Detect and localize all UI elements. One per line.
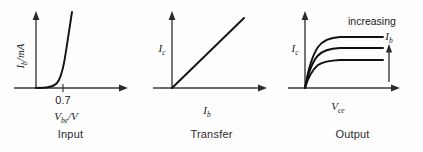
output-y-axis-label: Ic [290, 42, 299, 57]
output-curve-high [305, 37, 383, 88]
transfer-x-axis-label: Ib [202, 104, 211, 119]
panel-output: Ic Vce increasing Ib Output [282, 0, 423, 152]
transfer-caption: Transfer [141, 128, 282, 140]
transfer-curve [172, 18, 244, 88]
input-caption: Input [0, 128, 141, 140]
transistor-characteristics-figure: Ib/mA 0.7 Vbe/V Input Ic [0, 0, 423, 152]
input-plot: Ib/mA 0.7 Vbe/V [0, 0, 141, 125]
output-x-axis-arrowhead [391, 85, 400, 92]
output-y-axis-arrowhead [302, 11, 309, 20]
output-increasing-annotation: increasing [348, 15, 396, 27]
input-curve [36, 12, 72, 88]
input-y-axis-label: Ib/mA [14, 43, 29, 69]
output-curve-low [305, 60, 383, 88]
transfer-x-axis-arrowhead [258, 85, 267, 92]
input-x-axis-label: Vbe/V [54, 110, 79, 125]
output-increasing-variable-label: Ib [384, 30, 393, 45]
output-x-axis-label: Vce [331, 100, 345, 115]
panel-transfer: Ic Ib Transfer [141, 0, 282, 152]
transfer-y-axis-label: Ic [157, 42, 166, 57]
transfer-plot: Ic Ib [141, 0, 282, 125]
output-plot: Ic Vce increasing Ib [282, 0, 423, 125]
transfer-y-axis-arrowhead [169, 11, 176, 20]
output-curve-medium [305, 48, 383, 88]
output-caption: Output [282, 128, 423, 140]
input-tick-label: 0.7 [55, 94, 70, 106]
input-x-axis-arrowhead [119, 85, 128, 92]
output-increase-arrowhead [386, 44, 392, 53]
input-y-axis-arrowhead [33, 11, 40, 20]
panel-input: Ib/mA 0.7 Vbe/V Input [0, 0, 141, 152]
